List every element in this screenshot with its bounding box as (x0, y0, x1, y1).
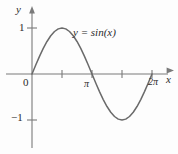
y-axis-arrowhead (29, 6, 35, 14)
y-axis-label: y (16, 4, 21, 15)
x-tick-label-two-pi: 2π (148, 77, 158, 87)
x-axis-label: x (166, 74, 171, 85)
origin-label: 0 (23, 77, 29, 88)
sine-function-graph: y x 1 0 −1 π 2π y = sin(x) (0, 0, 178, 154)
y-tick-label-negative-one: −1 (11, 112, 23, 123)
x-tick-label-pi: π (84, 79, 89, 89)
y-tick-label-one: 1 (19, 22, 25, 33)
equation-annotation: y = sin(x) (73, 27, 116, 38)
